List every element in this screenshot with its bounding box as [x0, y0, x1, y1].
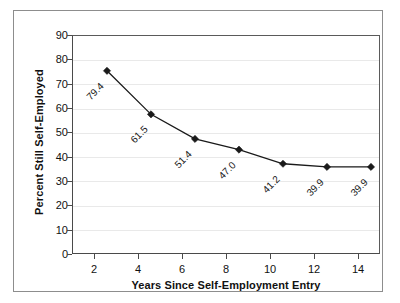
- y-axis-tick-mark: [67, 84, 72, 85]
- y-axis-tick-mark: [67, 108, 72, 109]
- y-axis-tick-mark: [67, 157, 72, 158]
- x-axis-tick-mark: [182, 254, 183, 259]
- x-axis-tick-label: 4: [123, 263, 153, 275]
- gridline: [73, 60, 379, 61]
- x-axis-title: Years Since Self-Employment Entry: [72, 279, 380, 291]
- chart-figure: 0102030405060708090 2468101214 79.461.55…: [0, 0, 400, 303]
- x-axis-tick-mark: [94, 254, 95, 259]
- y-axis-tick-mark: [67, 205, 72, 206]
- x-axis-tick-label: 12: [299, 263, 329, 275]
- y-axis-tick-mark: [67, 59, 72, 60]
- y-axis-tick-mark: [67, 254, 72, 255]
- gridline: [73, 181, 379, 182]
- x-axis-tick-label: 2: [79, 263, 109, 275]
- x-axis-tick-mark: [270, 254, 271, 259]
- x-axis-tick-label: 14: [343, 263, 373, 275]
- x-axis-tick-mark: [314, 254, 315, 259]
- y-axis-tick-mark: [67, 181, 72, 182]
- x-axis-tick-label: 10: [255, 263, 285, 275]
- y-axis-tick-mark: [67, 35, 72, 36]
- y-axis-title: Percent Still Self-Employed: [33, 32, 45, 252]
- x-axis-tick-mark: [226, 254, 227, 259]
- x-axis-tick-mark: [358, 254, 359, 259]
- gridline: [73, 109, 379, 110]
- plot-area: [72, 35, 380, 254]
- x-axis-tick-label: 8: [211, 263, 241, 275]
- x-axis-tick-label: 6: [167, 263, 197, 275]
- gridline: [73, 230, 379, 231]
- gridline: [73, 84, 379, 85]
- y-axis-tick-mark: [67, 132, 72, 133]
- figure-frame: 0102030405060708090 2468101214 79.461.55…: [13, 10, 383, 292]
- gridline: [73, 157, 379, 158]
- x-axis-tick-mark: [138, 254, 139, 259]
- gridline: [73, 206, 379, 207]
- gridline: [73, 133, 379, 134]
- y-axis-tick-mark: [67, 230, 72, 231]
